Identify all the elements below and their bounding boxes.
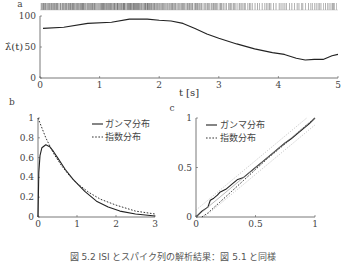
y-tick-label: 0.8 — [20, 133, 35, 143]
y-tick-label: 0.5 — [178, 163, 193, 173]
y-tick-label: 1 — [28, 113, 34, 123]
x-tick-label: 1 — [74, 219, 80, 229]
y-tick-label: 1 — [186, 113, 192, 123]
x-tick-label: 2 — [156, 80, 162, 90]
y-tick-label: 0.4 — [20, 172, 35, 182]
figure-caption: 図 5.2 ISI とスパイク列の解析結果：図 5.1 と同様 — [0, 250, 346, 263]
legend-label-gamma-c: ガンマ分布 — [220, 119, 265, 130]
y-tick-label: 100 — [19, 11, 36, 21]
x-axis-label: t [s] — [179, 87, 199, 98]
x-tick-label: 0 — [37, 80, 43, 90]
x-tick-label: 3 — [152, 219, 158, 229]
x-tick-label: 1 — [312, 219, 318, 229]
x-tick-label: 0 — [193, 219, 199, 229]
y-tick-label: 0.2 — [20, 192, 34, 202]
x-tick-label: 2 — [113, 219, 119, 229]
x-tick-label: 0 — [35, 219, 41, 229]
legend-label-gamma: ガンマ分布 — [105, 118, 150, 129]
y-tick-label: 0 — [186, 212, 192, 222]
panel-a — [40, 16, 338, 78]
series-estimated rate — [43, 19, 338, 60]
y-tick-label: 0 — [28, 212, 34, 222]
spike-raster — [40, 3, 338, 10]
panel-label-a: a — [17, 0, 23, 9]
panel-label-c: c — [169, 103, 174, 113]
x-tick-label: 0.5 — [248, 219, 263, 229]
legend-label-exp-c: 指数分布 — [220, 132, 256, 143]
x-tick-label: 4 — [276, 80, 282, 90]
figure: a012345050100λ̂(t)t [s]b012300.20.40.60.… — [0, 0, 346, 265]
x-tick-label: 3 — [216, 80, 222, 90]
panel-label-b: b — [9, 97, 15, 107]
series-ガンマ分布 — [38, 145, 155, 217]
y-tick-label: 50 — [25, 42, 37, 52]
y-tick-label: 0.6 — [20, 153, 35, 163]
x-tick-label: 1 — [97, 80, 103, 90]
confidence-band — [196, 118, 307, 210]
y-axis-label: λ̂(t) — [5, 41, 23, 52]
legend-label-exp: 指数分布 — [105, 131, 141, 142]
x-tick-label: 5 — [335, 80, 341, 90]
y-tick-label: 0 — [30, 73, 36, 83]
